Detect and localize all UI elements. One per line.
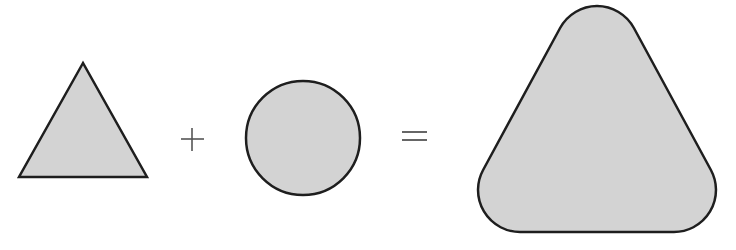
rounded-triangle-shape <box>478 6 716 232</box>
triangle-shape <box>19 63 147 177</box>
circle-shape <box>246 81 360 195</box>
minkowski-sum-diagram <box>0 0 736 250</box>
equals-operator <box>402 132 427 140</box>
plus-operator <box>181 128 204 151</box>
